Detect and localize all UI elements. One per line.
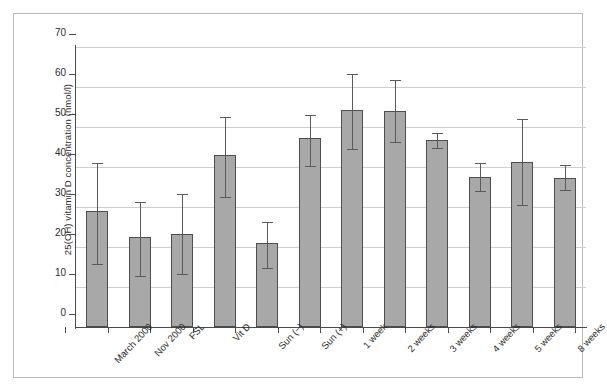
y-tick-mark: [69, 114, 76, 115]
plot-area: [76, 47, 586, 327]
error-bar-line: [267, 222, 268, 268]
y-tick-mark: [69, 274, 76, 275]
error-bar-cap-lower: [305, 166, 316, 167]
y-tick-label: 50: [24, 107, 66, 118]
error-bar-line: [522, 119, 523, 205]
error-bar-cap-upper: [475, 163, 486, 164]
y-tick-label: 20: [24, 227, 66, 238]
x-tick-mark: [490, 327, 491, 333]
gridline: [76, 127, 586, 128]
gridline: [76, 247, 586, 248]
error-bar-line: [225, 117, 226, 197]
error-bar-line: [140, 202, 141, 276]
y-tick-label-wrap: 60: [14, 74, 66, 75]
bar: [384, 111, 406, 327]
y-tick-mark: [69, 34, 76, 35]
y-tick-label-wrap: 50: [14, 114, 66, 115]
error-bar-cap-lower: [560, 190, 571, 191]
y-tick-label-wrap: 70: [14, 34, 66, 35]
y-tick-mark: [69, 74, 76, 75]
bar: [469, 177, 491, 327]
x-tick-mark: [278, 327, 279, 333]
error-bar-cap-lower: [262, 268, 273, 269]
error-bar-cap-lower: [135, 276, 146, 277]
error-bar-cap-lower: [177, 274, 188, 275]
x-tick-mark: [363, 327, 364, 333]
y-tick-mark: [69, 314, 76, 315]
error-bar-line: [565, 165, 566, 190]
error-bar-cap-upper: [220, 117, 231, 118]
y-tick-label: 0: [24, 307, 66, 318]
y-tick-label-wrap: 40: [14, 154, 66, 155]
y-tick-label: 30: [24, 187, 66, 198]
error-bar-cap-upper: [517, 119, 528, 120]
y-tick-label: 40: [24, 147, 66, 158]
error-bar-line: [480, 163, 481, 191]
y-tick-mark: [69, 154, 76, 155]
gridline: [76, 207, 586, 208]
error-bar-cap-lower: [475, 191, 486, 192]
error-bar-cap-lower: [432, 148, 443, 149]
error-bar-cap-upper: [432, 133, 443, 134]
gridline: [76, 47, 586, 48]
x-tick-mark: [575, 327, 576, 333]
y-tick-label-wrap: 30: [14, 194, 66, 195]
gridline: [76, 167, 586, 168]
error-bar-cap-upper: [305, 115, 316, 116]
error-bar-line: [395, 80, 396, 142]
x-tick-mark: [533, 327, 534, 333]
error-bar-cap-upper: [177, 194, 188, 195]
y-tick-mark: [69, 194, 76, 195]
y-tick-label-wrap: 0: [14, 314, 66, 315]
x-tick-mark: [65, 327, 66, 333]
error-bar-cap-lower: [390, 142, 401, 143]
x-tick-mark: [448, 327, 449, 333]
y-tick-label: 10: [24, 267, 66, 278]
error-bar-cap-upper: [560, 165, 571, 166]
error-bar-cap-upper: [262, 222, 273, 223]
y-tick-label: 70: [24, 27, 66, 38]
bar: [554, 178, 576, 327]
gridline: [76, 87, 586, 88]
error-bar-cap-lower: [347, 149, 358, 150]
gridline: [76, 287, 586, 288]
error-bar-line: [97, 163, 98, 264]
error-bar-cap-upper: [390, 80, 401, 81]
figure-frame: 25(OH) vitamin D concentration (nmol/l) …: [13, 13, 583, 378]
error-bar-cap-upper: [92, 163, 103, 164]
bar: [426, 140, 448, 327]
y-tick-mark: [69, 234, 76, 235]
error-bar-line: [182, 194, 183, 274]
x-tick-mark: [108, 327, 109, 333]
y-tick-label: 60: [24, 67, 66, 78]
error-bar-line: [310, 115, 311, 166]
x-tick-mark: [405, 327, 406, 333]
error-bar-cap-lower: [220, 197, 231, 198]
y-tick-label-wrap: 10: [14, 274, 66, 275]
error-bar-cap-lower: [92, 264, 103, 265]
y-tick-label-wrap: 20: [14, 234, 66, 235]
error-bar-line: [352, 74, 353, 149]
error-bar-cap-lower: [517, 205, 528, 206]
x-tick-mark: [320, 327, 321, 333]
error-bar-cap-upper: [347, 74, 358, 75]
error-bar-line: [437, 133, 438, 148]
error-bar-cap-upper: [135, 202, 146, 203]
